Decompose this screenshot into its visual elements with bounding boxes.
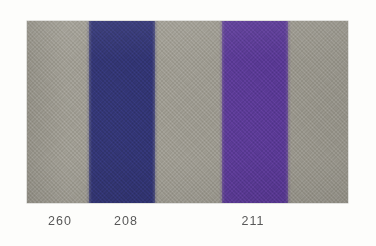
colour-band-260-right [288, 21, 348, 203]
fabric-sample-panel [27, 21, 348, 203]
band-edge-blend-navy-grey [152, 21, 158, 203]
colour-band-260-centre [155, 21, 222, 203]
band-edge-blend-grey-purple [219, 21, 225, 203]
band-edge-blend-grey-navy [86, 21, 92, 203]
colour-band-208-navy [89, 21, 155, 203]
colour-band-211-purple [222, 21, 288, 203]
fabric-colour-swatch-card: 260 208 211 [0, 0, 376, 246]
colour-band-260-left [27, 21, 89, 203]
colour-code-caption-row: 260 208 211 [27, 213, 348, 237]
colour-code-label-208: 208 [114, 213, 138, 229]
colour-code-label-211: 211 [241, 213, 264, 229]
band-edge-blend-purple-grey [285, 21, 291, 203]
colour-code-label-260: 260 [48, 213, 72, 229]
